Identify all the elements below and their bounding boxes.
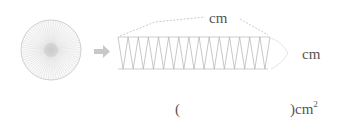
answer-unit: )cm2	[290, 102, 318, 117]
answer-unit-text: cm	[295, 101, 313, 117]
side-length-unit: cm	[302, 47, 320, 62]
right-brace-icon	[271, 38, 288, 69]
right-arrow-icon	[94, 45, 110, 58]
answer-blank[interactable]	[186, 100, 286, 118]
zigzag-rectangle-icon	[118, 37, 270, 69]
top-brace-icon	[120, 17, 268, 36]
answer-open-paren: (	[175, 102, 180, 117]
sector-circle-icon	[21, 20, 81, 80]
answer-exponent: 2	[313, 99, 318, 109]
top-length-unit: cm	[209, 11, 227, 26]
